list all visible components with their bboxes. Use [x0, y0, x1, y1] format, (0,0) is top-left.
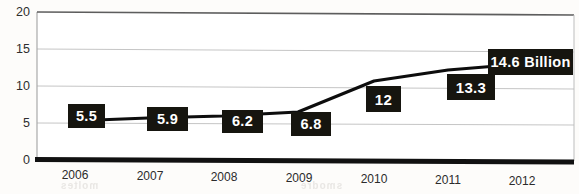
data-label-2008: 6.2 [222, 110, 263, 133]
x-tick-label-2007: 2007 [120, 170, 180, 182]
x-tick-label-2010: 2010 [344, 173, 404, 185]
x-tick-label-2011: 2011 [418, 174, 478, 186]
x-tick-label-2009: 2009 [269, 172, 329, 184]
chart-image: OJDNJ 14 2 vsnsk emlint asnsiln moltes s… [0, 0, 579, 194]
axis-bottom-spine [35, 160, 574, 163]
data-label-2009: 6.8 [291, 112, 331, 136]
data-label-2011: 13.3 [447, 74, 495, 100]
x-tick-label-2008: 2008 [194, 171, 254, 183]
x-tick-label-2012: 2012 [492, 175, 552, 187]
data-label-2007: 5.9 [147, 107, 188, 131]
data-label-2006: 5.5 [68, 104, 105, 128]
data-label-2012: 14.6 Billion [488, 49, 573, 75]
x-tick-label-2006: 2006 [45, 169, 105, 181]
data-label-2010: 12 [366, 86, 401, 112]
